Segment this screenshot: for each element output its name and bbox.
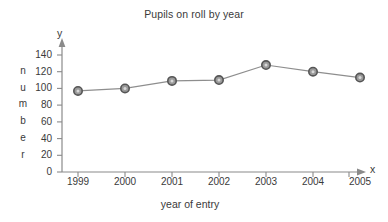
data-point-marker-center	[265, 64, 268, 67]
x-tick-label: 2000	[102, 176, 148, 187]
x-axis-letter: x	[370, 163, 375, 175]
data-point-marker-center	[171, 79, 174, 82]
x-axis-title: year of entry	[60, 198, 320, 210]
data-point-marker-center	[312, 70, 315, 73]
x-tick-label: 2003	[243, 176, 289, 187]
y-axis	[57, 38, 65, 172]
y-axis-title-char: u	[18, 83, 28, 93]
y-axis-title-char: r	[18, 150, 28, 160]
y-axis-title-char: b	[18, 116, 28, 126]
chart-figure: Pupils on roll by year	[0, 0, 388, 222]
x-tick-label: 2001	[149, 176, 195, 187]
y-axis-title-char: n	[18, 66, 28, 76]
y-tick-label: 140	[18, 50, 52, 60]
y-axis-letter: y	[57, 27, 62, 39]
x-tick-label: 1999	[55, 176, 101, 187]
y-tick-label: 0	[18, 167, 52, 177]
data-markers	[74, 61, 364, 95]
data-point-marker-center	[77, 89, 80, 92]
data-point-marker-center	[218, 79, 221, 82]
x-tick-label: 2004	[290, 176, 336, 187]
x-tick-label: 2005	[337, 176, 383, 187]
y-axis-title-char: m	[18, 99, 28, 109]
data-point-marker-center	[359, 76, 362, 79]
y-axis-title-char: e	[18, 133, 28, 143]
data-point-marker-center	[124, 87, 127, 90]
x-tick-label: 2002	[196, 176, 242, 187]
